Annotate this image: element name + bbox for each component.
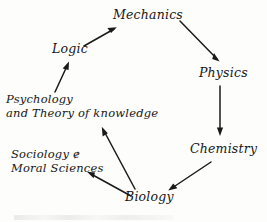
node-chemistry[interactable]: Chemistry xyxy=(190,142,257,157)
edge-logic-to-mechanics xyxy=(84,27,117,46)
diagram-canvas: Mechanics Physics Chemistry Biology Soci… xyxy=(0,0,267,222)
node-logic[interactable]: Logic xyxy=(52,42,88,57)
node-mechanics[interactable]: Mechanics xyxy=(113,8,183,23)
node-mechanics-line: Mechanics xyxy=(113,8,183,23)
node-sociology-moral-sciences[interactable]: Sociology ɇ Moral Sciences xyxy=(11,148,104,175)
edge-biology-to-psychology xyxy=(102,127,135,189)
edge-psychology-to-logic xyxy=(55,62,69,92)
node-biology[interactable]: Biology xyxy=(125,190,174,205)
edge-mechanics-to-physics xyxy=(180,21,220,62)
node-biology-line: Biology xyxy=(125,190,174,205)
node-chemistry-line: Chemistry xyxy=(190,142,257,157)
edge-physics-to-chemistry xyxy=(217,86,223,136)
node-psychology-line-1: Psychology xyxy=(6,93,158,107)
node-physics[interactable]: Physics xyxy=(199,66,248,81)
node-psychology-theory-of-knowledge[interactable]: Psychology and Theory of knowledge xyxy=(6,93,158,120)
node-physics-line: Physics xyxy=(199,66,248,81)
edge-chemistry-to-biology xyxy=(168,162,211,191)
node-sociology-line-1: Sociology ɇ xyxy=(11,148,104,162)
node-logic-line: Logic xyxy=(52,42,88,57)
node-psychology-line-2: and Theory of knowledge xyxy=(6,107,158,121)
node-sociology-line-2: Moral Sciences xyxy=(11,162,104,176)
